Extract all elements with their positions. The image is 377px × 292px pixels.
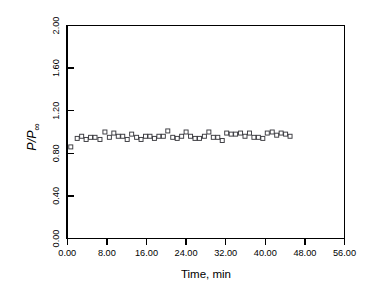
y-tick-label-3: 1.20	[51, 102, 61, 120]
data-point	[125, 137, 129, 141]
data-point	[139, 137, 143, 141]
data-point	[116, 134, 120, 138]
x-tick-label-5: 40.00	[254, 248, 277, 258]
data-point	[157, 134, 161, 138]
y-tick-label-5: 2.00	[51, 17, 61, 35]
data-point	[239, 131, 243, 135]
data-series-0	[69, 129, 292, 149]
x-axis-tick-labels: 0.00 8.00 16.00 24.00 32.00 40.00 48.00 …	[58, 248, 356, 258]
y-tick-label-1: 0.40	[51, 187, 61, 205]
data-point	[130, 132, 134, 136]
data-point	[161, 134, 165, 138]
x-axis-title: Time, min	[181, 268, 231, 280]
data-point	[107, 135, 111, 139]
data-point	[166, 129, 170, 133]
data-point	[229, 132, 233, 136]
data-point	[103, 130, 107, 134]
data-point	[270, 130, 274, 134]
data-point	[211, 135, 215, 139]
chart-figure: 0.00 0.40 0.80 1.20 1.60 2.00 P/P∞	[0, 0, 377, 292]
data-point	[197, 136, 201, 140]
data-point	[261, 136, 265, 140]
data-point	[256, 135, 260, 139]
y-axis-title-subscript: ∞	[31, 123, 42, 130]
x-tick-label-1: 8.00	[98, 248, 116, 258]
data-point	[180, 134, 184, 138]
y-axis-title: P/P∞	[25, 123, 42, 150]
x-tick-label-7: 56.00	[333, 248, 356, 258]
data-point	[202, 134, 206, 138]
data-point	[144, 134, 148, 138]
data-point	[252, 135, 256, 139]
x-tick-label-4: 32.00	[214, 248, 237, 258]
data-point	[84, 137, 88, 141]
y-tick-label-2: 0.80	[51, 144, 61, 162]
data-point	[193, 136, 197, 140]
y-axis-ticks	[67, 26, 74, 239]
data-point	[234, 132, 238, 136]
data-point	[112, 131, 116, 135]
data-point	[279, 131, 283, 135]
data-point	[189, 134, 193, 138]
x-axis: 0.00 8.00 16.00 24.00 32.00 40.00 48.00 …	[58, 239, 356, 281]
x-tick-label-6: 48.00	[293, 248, 316, 258]
data-point	[135, 135, 139, 139]
svg-text:P/P∞: P/P∞	[25, 123, 42, 150]
x-tick-label-2: 16.00	[135, 248, 158, 258]
data-point	[98, 137, 102, 141]
data-point	[89, 135, 93, 139]
data-point	[148, 134, 152, 138]
scatter-plot: 0.00 0.40 0.80 1.20 1.60 2.00 P/P∞	[0, 0, 377, 292]
x-axis-ticks	[67, 239, 344, 246]
data-point	[247, 131, 251, 135]
x-tick-label-0: 0.00	[58, 248, 76, 258]
data-point	[216, 135, 220, 139]
data-point	[243, 134, 247, 138]
data-point	[288, 134, 292, 138]
data-point	[275, 133, 279, 137]
data-point	[69, 145, 73, 149]
y-axis-tick-labels: 0.00 0.40 0.80 1.20 1.60 2.00	[51, 17, 61, 248]
data-point	[80, 134, 84, 138]
plot-frame	[67, 26, 345, 239]
data-point	[207, 130, 211, 134]
data-point	[284, 132, 288, 136]
x-tick-label-3: 24.00	[175, 248, 198, 258]
data-point	[220, 139, 224, 143]
y-tick-label-0: 0.00	[51, 230, 61, 248]
data-point	[75, 136, 79, 140]
data-point	[152, 136, 156, 140]
data-point	[121, 134, 125, 138]
y-axis: 0.00 0.40 0.80 1.20 1.60 2.00 P/P∞	[25, 17, 74, 248]
data-point	[93, 135, 97, 139]
data-point	[171, 135, 175, 139]
data-point	[184, 130, 188, 134]
data-point	[225, 131, 229, 135]
data-point	[265, 131, 269, 135]
data-point	[175, 136, 179, 140]
y-tick-label-4: 1.60	[51, 59, 61, 77]
data-series-layer	[69, 129, 292, 149]
